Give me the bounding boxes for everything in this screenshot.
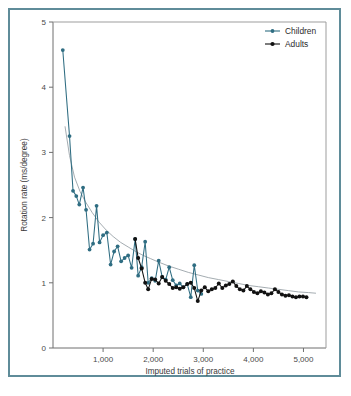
y-axis-tick-labels: 012345 xyxy=(42,18,47,353)
data-point-adults xyxy=(217,281,221,285)
data-point-adults xyxy=(136,256,140,260)
series-line-children xyxy=(63,50,202,297)
data-point-children xyxy=(74,194,78,198)
legend-marker-adults xyxy=(270,42,274,46)
data-point-adults xyxy=(241,289,245,293)
data-point-adults xyxy=(150,277,154,281)
data-point-adults xyxy=(164,279,168,283)
data-point-children xyxy=(81,186,85,190)
data-point-adults xyxy=(297,294,301,298)
data-point-children xyxy=(171,278,175,282)
data-point-children xyxy=(88,248,92,252)
data-point-children xyxy=(61,48,65,52)
data-point-children xyxy=(95,204,99,208)
x-tick-label: 5,000 xyxy=(293,355,314,364)
data-point-children xyxy=(71,189,75,193)
data-point-children xyxy=(126,254,130,258)
data-point-adults xyxy=(140,266,144,270)
chart-canvas: 012345 1,0002,0003,0004,0005,000 Imputed… xyxy=(0,0,351,396)
data-point-children xyxy=(130,266,134,270)
data-point-adults xyxy=(301,294,305,298)
data-point-adults xyxy=(160,275,164,279)
data-point-adults xyxy=(167,282,171,286)
y-axis-ticks xyxy=(49,22,53,348)
legend-entry-children[interactable]: Children xyxy=(265,26,317,36)
x-axis-tick-labels: 1,0002,0003,0004,0005,000 xyxy=(93,355,314,364)
data-point-adults xyxy=(262,291,266,295)
legend-marker-children xyxy=(271,29,275,33)
data-point-adults xyxy=(269,291,273,295)
data-point-adults xyxy=(185,282,189,286)
x-tick-label: 1,000 xyxy=(93,355,114,364)
data-point-children xyxy=(143,240,147,244)
y-tick-label: 4 xyxy=(42,83,47,92)
data-point-adults xyxy=(287,293,291,297)
x-tick-label: 4,000 xyxy=(243,355,264,364)
data-point-adults xyxy=(245,284,249,288)
data-point-adults xyxy=(234,284,238,288)
legend-label-adults: Adults xyxy=(285,39,308,49)
data-point-adults xyxy=(259,289,263,293)
data-point-adults xyxy=(255,291,259,295)
data-point-adults xyxy=(266,293,270,297)
data-point-adults xyxy=(153,278,157,282)
data-point-children xyxy=(101,233,105,237)
plot-axes xyxy=(53,22,326,348)
data-point-adults xyxy=(181,285,185,289)
data-point-adults xyxy=(174,285,178,289)
data-point-adults xyxy=(199,289,203,293)
data-point-adults xyxy=(210,287,214,291)
legend-label-children: Children xyxy=(285,26,317,36)
data-point-adults xyxy=(189,281,193,285)
data-point-adults xyxy=(290,294,294,298)
data-point-children xyxy=(105,231,109,235)
data-point-adults xyxy=(213,286,217,290)
data-point-adults xyxy=(224,283,228,287)
data-point-children xyxy=(112,250,116,254)
x-tick-label: 3,000 xyxy=(193,355,214,364)
data-point-adults xyxy=(294,295,298,299)
data-point-adults xyxy=(220,286,224,290)
legend-entry-adults[interactable]: Adults xyxy=(265,39,308,49)
data-point-children xyxy=(167,265,171,269)
data-point-children xyxy=(98,240,102,244)
data-point-adults xyxy=(280,293,284,297)
data-point-children xyxy=(189,295,193,299)
x-axis-title: Imputed trials of practice xyxy=(145,367,235,376)
data-point-adults xyxy=(238,287,242,291)
y-tick-label: 1 xyxy=(42,279,47,288)
data-point-adults xyxy=(171,286,175,290)
data-point-adults xyxy=(304,295,308,299)
data-point-adults xyxy=(227,282,231,286)
data-point-children xyxy=(196,289,200,293)
data-point-children xyxy=(109,263,113,267)
data-point-children xyxy=(157,259,161,263)
data-point-children xyxy=(123,256,127,260)
data-point-adults xyxy=(276,290,280,294)
data-point-children xyxy=(77,203,81,207)
data-point-adults xyxy=(146,287,150,291)
data-point-adults xyxy=(231,280,235,284)
data-point-children xyxy=(91,242,95,246)
data-point-adults xyxy=(283,294,287,298)
data-point-adults xyxy=(178,287,182,291)
y-tick-label: 5 xyxy=(42,18,47,27)
data-point-adults xyxy=(203,285,207,289)
data-point-adults xyxy=(143,281,147,285)
data-point-adults xyxy=(196,299,200,303)
y-tick-label: 3 xyxy=(42,148,47,157)
y-tick-label: 0 xyxy=(42,344,47,353)
x-tick-label: 2,000 xyxy=(143,355,164,364)
data-point-adults xyxy=(252,290,256,294)
y-tick-label: 2 xyxy=(42,214,47,223)
data-point-children xyxy=(119,259,123,263)
data-point-adults xyxy=(248,287,252,291)
data-point-children xyxy=(192,263,196,267)
data-point-adults xyxy=(192,286,196,290)
series-adults xyxy=(133,237,308,303)
data-point-children xyxy=(116,244,120,248)
data-point-children xyxy=(136,274,140,278)
data-point-children xyxy=(68,134,72,138)
data-point-adults xyxy=(133,237,137,241)
x-axis-ticks xyxy=(103,348,303,352)
